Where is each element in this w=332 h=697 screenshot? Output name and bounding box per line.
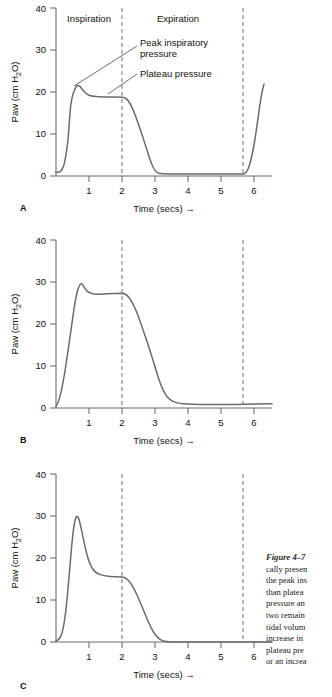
caption-line-3: than platea [266,587,332,599]
caption-line-7: increase in [266,633,332,645]
x-tick-label-1-b: 1 [86,417,91,428]
phase-label-expiration: Expiration [157,13,199,24]
annotation-plateau-line1: Plateau pressure [140,68,212,79]
y-tick-label-0-c: 0 [41,636,46,647]
y-tick-label-10-a: 10 [35,128,46,139]
panel-letter-b: B [20,435,27,445]
x-tick-label-2-c: 2 [119,651,124,662]
figure-caption: Figure 4–7 cally presen the peak ins tha… [266,552,332,668]
waveform-curve-a [56,84,264,174]
y-tick-label-20-a: 20 [35,86,46,97]
y-tick-label-10-c: 10 [35,594,46,605]
annotation-peak-line2: pressure [140,48,177,59]
y-tick-label-30-c: 30 [35,510,46,521]
phase-label-inspiration: Inspiration [67,13,111,24]
y-tick-label-40-b: 40 [35,235,46,246]
chart-a: 0 10 20 30 40 1 2 3 4 5 6 Paw (cm H2O) T… [0,0,332,220]
y-tick-label-40-a: 40 [35,3,46,14]
x-tick-label-1-c: 1 [86,651,91,662]
leader-plateau-pressure [108,74,137,94]
panel-letter-a: A [20,203,27,213]
y-tick-label-20-c: 20 [35,552,46,563]
x-tick-label-5-c: 5 [218,651,223,662]
x-tick-label-6-a: 6 [251,185,256,196]
x-tick-label-5-b: 5 [218,417,223,428]
x-tick-label-3-b: 3 [152,417,157,428]
y-axis-title-b: Paw (cm H2O) [9,294,22,355]
x-tick-label-4-b: 4 [185,417,190,428]
x-axis-title-b: Time (secs) → [133,435,194,446]
caption-line-6: tidal volum [266,622,332,634]
caption-line-1: cally presen [266,564,332,576]
waveform-curve-b [56,284,272,407]
x-tick-label-5-a: 5 [218,185,223,196]
panel-b: 0 10 20 30 40 1 2 3 4 5 6 Paw (cm H2O) T… [0,224,332,450]
x-tick-label-4-c: 4 [185,651,190,662]
y-tick-label-0-a: 0 [41,170,46,181]
panel-letter-c: C [20,681,27,691]
y-tick-label-30-a: 30 [35,44,46,55]
y-tick-label-0-b: 0 [41,402,46,413]
y-tick-label-30-b: 30 [35,276,46,287]
caption-line-4: pressure an [266,598,332,610]
caption-line-2: the peak ins [266,575,332,587]
y-tick-label-40-c: 40 [35,469,46,480]
caption-line-0: Figure 4–7 [266,552,332,564]
waveform-curve-c [56,516,272,642]
caption-line-8: plateau pre [266,645,332,657]
panel-a: 0 10 20 30 40 1 2 3 4 5 6 Paw (cm H2O) T… [0,0,332,220]
x-tick-label-3-c: 3 [152,651,157,662]
svg-text:Paw (cm H2O): Paw (cm H2O) [9,62,22,123]
y-tick-label-20-b: 20 [35,318,46,329]
y-axis-title-c: Paw (cm H2O) [9,528,22,589]
x-tick-label-3-a: 3 [152,185,157,196]
x-tick-label-6-b: 6 [251,417,256,428]
svg-text:Paw (cm H2O): Paw (cm H2O) [9,294,22,355]
x-tick-label-2-b: 2 [119,417,124,428]
caption-line-9: or an increa [266,656,332,668]
x-tick-label-2-a: 2 [119,185,124,196]
svg-text:Paw (cm H2O): Paw (cm H2O) [9,528,22,589]
annotation-peak-line1: Peak inspiratory [140,37,208,48]
caption-line-5: two remain [266,610,332,622]
y-tick-label-10-b: 10 [35,360,46,371]
x-axis-title-a: Time (secs) → [133,203,194,214]
x-tick-label-1-a: 1 [86,185,91,196]
x-axis-title-c: Time (secs) → [133,669,194,680]
x-tick-label-4-a: 4 [185,185,190,196]
y-axis-title-a: Paw (cm H2O) [9,62,22,123]
chart-b: 0 10 20 30 40 1 2 3 4 5 6 Paw (cm H2O) T… [0,224,332,450]
x-tick-label-6-c: 6 [251,651,256,662]
